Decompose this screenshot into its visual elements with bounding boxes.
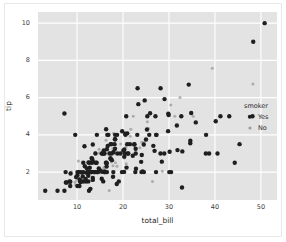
scatter-point	[214, 119, 218, 123]
scatter-point	[151, 144, 155, 148]
scatter-point	[129, 128, 132, 131]
legend-item-no[interactable]: No	[243, 122, 285, 133]
scatter-point	[142, 142, 146, 146]
scatter-point	[63, 170, 67, 174]
scatter-point	[162, 97, 166, 101]
scatter-point	[187, 82, 191, 86]
scatter-point	[82, 144, 86, 148]
scatter-point	[111, 170, 115, 174]
scatter-point	[251, 83, 254, 86]
scatter-point	[78, 180, 82, 184]
scatter-point	[113, 137, 117, 141]
x-axis-label: total_bill	[38, 216, 277, 225]
scatter-point	[90, 156, 94, 160]
scatter-point	[132, 115, 135, 118]
scatter-point	[152, 149, 156, 153]
scatter-point	[116, 165, 119, 168]
scatter-point	[113, 147, 117, 151]
scatter-point	[95, 170, 99, 174]
scatter-point	[68, 184, 72, 188]
x-tick-label: 50	[257, 204, 265, 211]
scatter-point	[75, 170, 79, 174]
scatter-point	[237, 142, 241, 146]
legend-marker-no	[243, 122, 257, 133]
legend-item-yes[interactable]: Yes	[243, 111, 285, 122]
legend-label-no: No	[258, 124, 267, 132]
scatter-point	[133, 147, 137, 151]
scatter-point	[161, 170, 164, 173]
scatter-point	[151, 180, 154, 183]
legend[interactable]: smoker Yes No	[243, 102, 285, 133]
scatter-point	[135, 133, 139, 137]
scatter-point	[173, 115, 176, 118]
scatter-point	[64, 180, 68, 184]
scatter-point	[138, 146, 141, 149]
scatter-point	[133, 170, 137, 174]
scatter-point	[144, 137, 148, 141]
legend-marker-yes	[243, 111, 257, 122]
scatter-point	[131, 154, 135, 158]
scatter-point	[158, 86, 162, 90]
scatter-point	[129, 135, 132, 138]
scatter-point	[148, 111, 152, 115]
scatter-point	[114, 161, 117, 164]
x-tick-label: 40	[211, 204, 219, 211]
x-tick-label: 30	[165, 204, 173, 211]
scatter-point	[124, 165, 128, 169]
scatter-point	[207, 151, 211, 155]
scatter-point	[139, 170, 143, 174]
scatter-point	[175, 148, 179, 152]
scatter-point	[91, 142, 95, 146]
scatter-point	[101, 179, 105, 183]
figure: 1020304050246810 total_bill tip smoker Y…	[0, 0, 286, 242]
scatter-point	[125, 142, 129, 146]
scatter-point	[175, 123, 179, 127]
scatter-point	[104, 127, 108, 131]
scatter-point	[189, 111, 193, 115]
legend-label-yes: Yes	[258, 113, 269, 121]
scatter-point	[74, 175, 78, 179]
scatter-point	[123, 151, 127, 155]
scatter-point	[112, 142, 116, 146]
scatter-point	[166, 111, 170, 115]
scatter-point	[119, 142, 122, 145]
scatter-point	[43, 188, 47, 192]
scatter-point	[145, 127, 149, 131]
scatter-point	[124, 114, 128, 118]
scatter-point	[100, 170, 104, 174]
scatter-point	[251, 40, 255, 44]
scatter-point	[135, 86, 139, 90]
scatter-point	[194, 120, 198, 124]
scatter-point	[93, 151, 97, 155]
scatter-point	[98, 148, 101, 151]
scatter-point	[162, 151, 166, 155]
scatter-point	[218, 114, 222, 118]
scatter-points[interactable]	[38, 12, 277, 200]
scatter-point	[73, 133, 77, 137]
scatter-point	[62, 111, 66, 115]
scatter-point	[115, 133, 119, 137]
scatter-point	[111, 164, 114, 167]
scatter-point	[100, 151, 104, 155]
scatter-point	[180, 185, 184, 189]
scatter-point	[153, 114, 157, 118]
scatter-point	[82, 179, 86, 183]
scatter-point	[154, 133, 158, 137]
plot-area[interactable]	[38, 12, 277, 200]
scatter-point	[120, 129, 124, 133]
scatter-point	[115, 182, 119, 186]
scatter-point	[179, 96, 182, 99]
scatter-point	[115, 151, 119, 155]
scatter-point	[108, 156, 112, 160]
scatter-point	[123, 133, 127, 137]
scatter-point	[97, 166, 101, 170]
scatter-point	[215, 151, 219, 155]
scatter-point	[139, 160, 143, 164]
y-axis-label: tip	[4, 101, 13, 111]
scatter-point	[90, 161, 94, 165]
legend-title: smoker	[243, 102, 285, 110]
scatter-point	[77, 159, 80, 162]
scatter-point	[142, 98, 146, 102]
scatter-point	[233, 161, 237, 165]
scatter-point	[68, 171, 72, 175]
